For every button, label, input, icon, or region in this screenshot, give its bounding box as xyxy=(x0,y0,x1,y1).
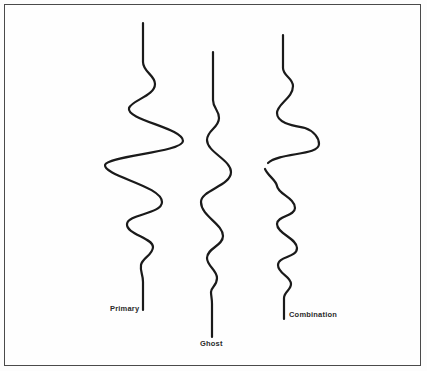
primary-label: Primary xyxy=(110,304,139,313)
primary-trace xyxy=(105,23,183,310)
ghost-label: Ghost xyxy=(200,339,223,348)
combination-trace-upper xyxy=(268,35,319,163)
combination-trace-lower xyxy=(265,169,297,319)
wavelet-diagram xyxy=(0,0,427,371)
ghost-trace xyxy=(201,52,231,337)
combination-label: Combination xyxy=(289,310,337,319)
